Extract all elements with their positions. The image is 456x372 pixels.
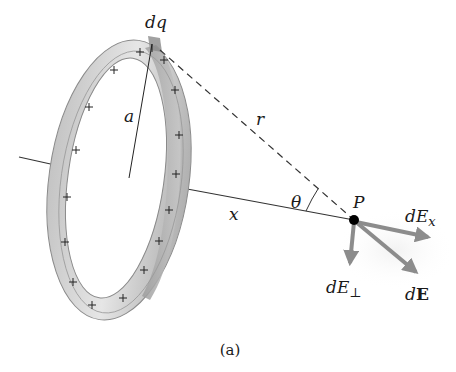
axis-line-left — [19, 157, 55, 165]
label-dE: dE — [405, 284, 429, 304]
angle-arc — [306, 189, 318, 211]
figure-caption: (a) — [220, 341, 241, 359]
charged-ring — [30, 31, 208, 330]
label-a: a — [124, 106, 134, 126]
label-dq: dq — [145, 12, 167, 32]
label-x: x — [229, 204, 239, 224]
charged-ring-diagram: dq a r x θ P dEx dE⊥ dE (a) — [0, 0, 456, 372]
label-theta: θ — [291, 192, 301, 212]
label-P: P — [352, 192, 365, 212]
label-r: r — [256, 109, 265, 129]
label-dEx: dEx — [405, 206, 436, 229]
point-P — [349, 215, 359, 225]
